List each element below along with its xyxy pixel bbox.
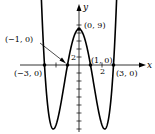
polynomial-graph: x y 2 2 (0, 9) (−1, 0) (−3, 0) (1, 0) (3… [0,0,155,134]
pointer-arrow-icon [60,58,67,64]
point-label-0-9: (0, 9) [84,21,106,30]
point-label-3-0: (3, 0) [116,69,138,78]
x-axis-arrow-icon [139,63,146,68]
point-label-neg1-0: (−1, 0) [5,35,33,44]
y-axis-arrow-icon [77,4,82,11]
point-label-neg3-0: (−3, 0) [14,69,42,78]
axes [20,4,146,132]
y-tick-label-2: 2 [71,53,76,62]
point-label-1-0: (1, 0) [91,56,113,65]
key-point-dot [43,63,47,67]
x-axis-label: x [147,60,152,70]
x-tick-label-2: 2 [100,67,105,76]
key-point-dot [66,63,70,67]
y-axis-label: y [82,2,89,12]
key-point-dot [77,27,81,31]
